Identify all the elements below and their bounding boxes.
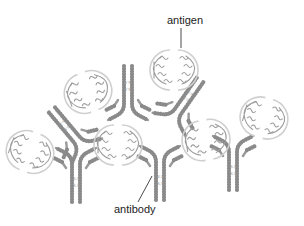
antigen-center [94, 125, 142, 165]
antibody-top-right [151, 67, 218, 136]
antibody-bottom-right [211, 136, 255, 190]
antigen-label: antigen [167, 14, 203, 26]
antibody-top-center [106, 66, 150, 120]
antibody-leader-line [138, 176, 152, 202]
antigen-right [236, 92, 293, 143]
antigen-center-right [179, 116, 233, 164]
antibody-label: antibody [114, 203, 156, 215]
antibody-antigen-diagram: S-S S-S [0, 0, 304, 226]
antibody-bottom-center [138, 146, 182, 200]
antigen-top-left [59, 65, 118, 119]
antigen-callout: antigen [167, 14, 203, 48]
antibody-callout: antibody [114, 176, 156, 215]
antigen-left [1, 125, 60, 179]
